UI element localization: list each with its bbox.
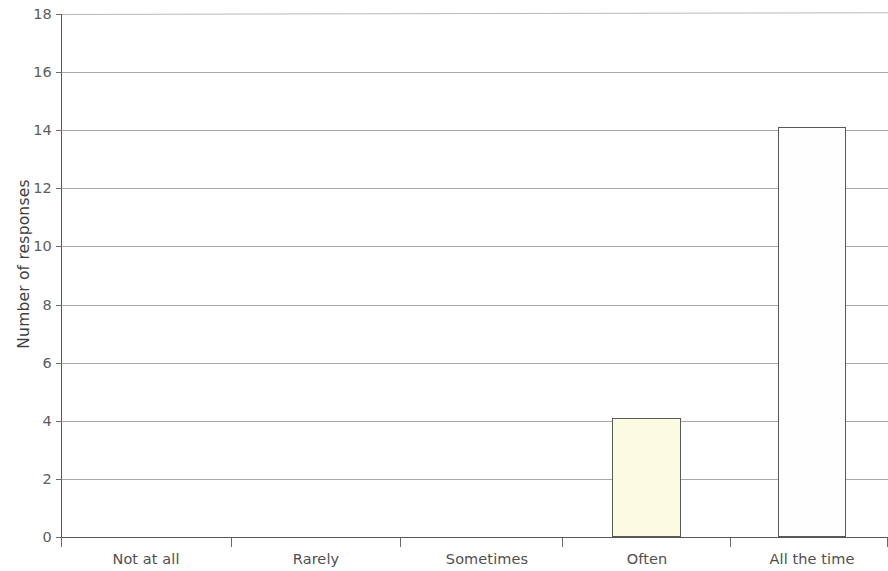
x-category-label-all-the-time: All the time [770,551,855,567]
y-axis-title: Number of responses [15,144,33,384]
bar-chart: 18 16 14 12 10 8 6 4 2 0 Not at all Rare… [0,0,888,571]
gridline-12 [61,188,888,189]
y-tick-label-16: 16 [6,64,52,80]
y-tick-2 [56,479,62,480]
x-tick-2 [400,538,401,547]
x-tick-0 [61,538,62,547]
y-tick-8 [56,305,62,306]
y-tick-4 [56,421,62,422]
y-tick-label-0: 0 [6,529,52,545]
x-tick-1 [231,538,232,547]
x-tick-4 [730,538,731,547]
y-tick-10 [56,246,62,247]
x-tick-3 [562,538,563,547]
y-tick-label-4: 4 [6,413,52,429]
gridline-14 [61,130,888,131]
y-tick-18 [56,14,62,15]
y-tick-label-2: 2 [6,471,52,487]
y-tick-6 [56,363,62,364]
y-tick-label-14: 14 [6,122,52,138]
gridline-18 [61,12,888,15]
plot-area [61,14,888,537]
gridline-4 [61,421,888,422]
x-category-label-rarely: Rarely [293,551,339,567]
y-tick-16 [56,72,62,73]
bar-often [612,418,681,537]
y-tick-label-18: 18 [6,6,52,22]
x-category-label-not-at-all: Not at all [112,551,179,567]
gridline-16 [61,72,888,73]
gridline-2 [61,479,888,480]
gridline-6 [61,363,888,364]
bar-all-the-time [778,127,846,537]
y-tick-14 [56,130,62,131]
gridline-10 [61,246,888,247]
y-axis-line [61,14,62,538]
x-axis-line [61,537,888,538]
y-tick-12 [56,188,62,189]
x-category-label-often: Often [627,551,668,567]
x-category-label-sometimes: Sometimes [446,551,528,567]
gridline-8 [61,305,888,306]
